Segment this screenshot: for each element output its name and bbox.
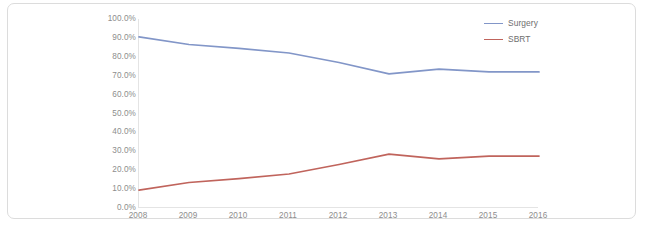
y-tick-label: 40.0% [82, 128, 136, 136]
line-chart: 100.0%90.0%80.0%70.0%60.0%50.0%40.0%30.0… [0, 0, 649, 227]
x-tick-label: 2013 [379, 212, 398, 220]
x-tick-label: 2012 [329, 212, 348, 220]
legend-label: Surgery [508, 19, 538, 27]
series-line-surgery [139, 37, 539, 74]
series-line-sbrt [139, 154, 539, 190]
chart-legend: SurgerySBRT [484, 17, 604, 49]
y-tick-label: 70.0% [82, 72, 136, 80]
y-tick-label: 80.0% [82, 53, 136, 61]
x-tick-label: 2010 [229, 212, 248, 220]
legend-swatch-sbrt [484, 39, 503, 40]
y-tick-label: 50.0% [82, 110, 136, 118]
y-axis: 100.0%90.0%80.0%70.0%60.0%50.0%40.0%30.0… [82, 0, 136, 227]
legend-swatch-surgery [484, 23, 503, 24]
legend-item-surgery[interactable]: Surgery [484, 17, 604, 30]
x-tick-label: 2015 [479, 212, 498, 220]
plot-area [138, 19, 538, 208]
x-tick-label: 2008 [129, 212, 148, 220]
y-tick-label: 20.0% [82, 166, 136, 174]
x-tick-label: 2011 [279, 212, 297, 220]
x-tick-label: 2016 [529, 212, 548, 220]
y-tick-label: 10.0% [82, 185, 136, 193]
y-tick-label: 90.0% [82, 34, 136, 42]
x-tick-label: 2014 [429, 212, 448, 220]
y-tick-label: 30.0% [82, 147, 136, 155]
legend-label: SBRT [508, 35, 531, 43]
y-tick-label: 100.0% [82, 15, 136, 23]
plot-svg [139, 19, 539, 208]
x-tick-label: 2009 [179, 212, 198, 220]
x-axis: 200820092010201120122013201420152016 [138, 212, 538, 226]
legend-item-sbrt[interactable]: SBRT [484, 33, 604, 46]
y-tick-label: 60.0% [82, 91, 136, 99]
